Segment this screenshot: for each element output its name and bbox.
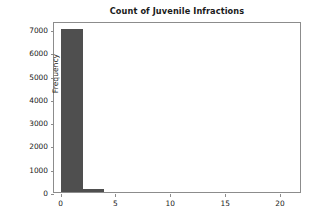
plot-area: 01000200030004000500060007000 05101520 F…	[53, 22, 301, 193]
y-axis-tick-label: 0	[43, 189, 48, 198]
tick-mark	[115, 194, 116, 197]
y-axis-tick-label: 2000	[29, 142, 48, 151]
x-axis-tick-label: 15	[215, 199, 235, 208]
y-axis-tick-label: 1000	[29, 166, 48, 175]
tick-mark	[280, 194, 281, 197]
tick-mark	[51, 194, 54, 195]
tick-mark	[51, 147, 54, 148]
tick-mark	[51, 124, 54, 125]
x-axis-tick-label: 20	[270, 199, 290, 208]
y-axis-label: Frequency	[51, 34, 60, 114]
tick-mark	[170, 194, 171, 197]
y-axis-tick-label: 3000	[29, 119, 48, 128]
tick-mark	[51, 31, 54, 32]
y-axis-tick-label: 7000	[29, 26, 48, 35]
chart-figure: Count of Juvenile Infractions 0100020003…	[0, 0, 316, 224]
x-axis-tick-label: 10	[160, 199, 180, 208]
chart-title: Count of Juvenile Infractions	[53, 6, 301, 17]
bars-layer	[54, 23, 300, 192]
tick-mark	[51, 171, 54, 172]
histogram-bar	[83, 189, 105, 192]
y-axis-tick-label: 6000	[29, 49, 48, 58]
y-axis-tick-label: 4000	[29, 96, 48, 105]
x-axis-tick-label: 5	[105, 199, 125, 208]
y-axis-tick-label: 5000	[29, 73, 48, 82]
histogram-bar	[61, 29, 83, 192]
tick-mark	[225, 194, 226, 197]
x-axis-tick-label: 0	[51, 199, 71, 208]
tick-mark	[61, 194, 62, 197]
